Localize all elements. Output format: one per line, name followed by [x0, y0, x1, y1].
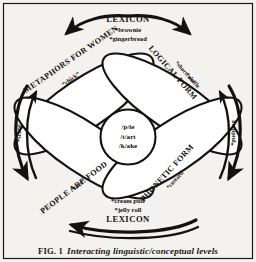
right-side-note: *pudding — [229, 119, 236, 145]
left-side-note: *scone — [15, 124, 22, 142]
diagram-canvas: LEXICON *brownie *gingerbread METAPHORS … — [0, 0, 256, 262]
center-item-1: /t/art — [119, 133, 136, 141]
figure-container: LEXICON *brownie *gingerbread METAPHORS … — [0, 0, 256, 262]
figure-caption: FIG. 1 Interacting linguistic/conceptual… — [0, 240, 256, 258]
top-lexicon-item-1: *gingerbread — [109, 35, 147, 42]
top-lexicon-label: LEXICON — [106, 14, 150, 24]
center-item-2: /k/ake — [118, 142, 138, 150]
bottom-lexicon-group: *cream puff *jelly roll LEXICON — [106, 197, 150, 224]
center-item-0: /p/ie — [120, 123, 134, 131]
bottom-lexicon-item-1: *jelly roll — [115, 206, 142, 213]
figure-caption-title: Interacting linguistic/conceptual levels — [67, 246, 218, 256]
bottom-lexicon-label: LEXICON — [106, 214, 150, 224]
center-text-group: /p/ie /t/art /k/ake — [118, 123, 138, 150]
bottom-lexicon-item-0: *cream puff — [111, 197, 146, 204]
figure-caption-prefix: FIG. 1 — [38, 246, 63, 256]
